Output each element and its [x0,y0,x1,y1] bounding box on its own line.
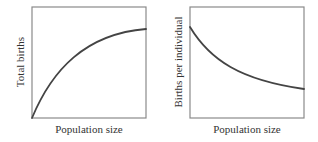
left-chart-curve [32,29,146,118]
right-chart: Population size Births per individual [172,7,304,135]
right-chart-frame [190,7,304,118]
figure: Population size Total births Population … [0,0,318,142]
left-chart-x-label: Population size [55,123,123,135]
left-chart-y-label: Total births [14,37,26,87]
right-chart-curve [190,27,304,89]
right-chart-x-label: Population size [213,123,281,135]
left-chart-frame [32,7,146,118]
right-chart-y-label: Births per individual [172,16,184,107]
left-chart: Population size Total births [14,7,146,135]
